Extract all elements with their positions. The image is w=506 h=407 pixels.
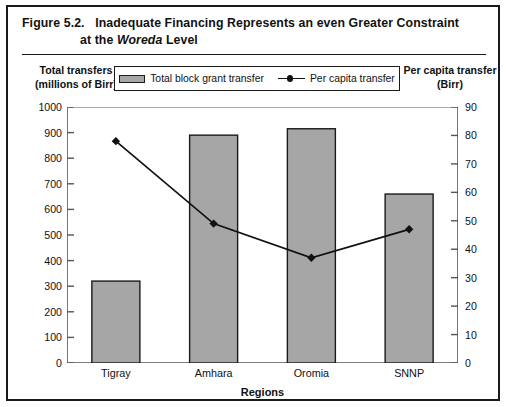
left-axis-title: Total transfers (millions of Birr) <box>24 64 128 91</box>
category-label-oromia: Oromia <box>263 367 361 383</box>
figure-title: Figure 5.2. Inadequate Financing Represe… <box>22 15 488 49</box>
title-divider <box>22 54 486 55</box>
right-tick-30: 30 <box>465 272 477 284</box>
figure-title-line1: Figure 5.2. Inadequate Financing Represe… <box>22 15 488 32</box>
category-axis-labels: TigrayAmharaOromiaSNNP <box>67 367 458 383</box>
left-axis-title-line1: Total transfers <box>24 64 128 78</box>
legend-item-per-capita-transfer: Per capita transfer <box>278 73 395 84</box>
left-tick-1000: 1000 <box>20 101 62 113</box>
left-tick-600: 600 <box>20 203 62 215</box>
right-tick-50: 50 <box>465 215 477 227</box>
left-tick-400: 400 <box>20 255 62 267</box>
right-tick-80: 80 <box>465 129 477 141</box>
figure-title-prefix: at the <box>80 33 117 47</box>
legend-line-marker-icon <box>278 74 305 84</box>
left-tick-0: 0 <box>20 357 62 369</box>
left-tick-700: 700 <box>20 178 62 190</box>
figure-frame: Figure 5.2. Inadequate Financing Represe… <box>6 5 500 401</box>
figure-title-italic-term: Woreda <box>117 33 162 47</box>
left-tick-800: 800 <box>20 152 62 164</box>
category-label-tigray: Tigray <box>67 367 165 383</box>
right-axis-tick-labels: 9080706050403020100 <box>465 107 499 363</box>
left-tick-900: 900 <box>20 127 62 139</box>
bar-amhara <box>190 135 238 363</box>
right-tick-40: 40 <box>465 243 477 255</box>
legend-bar-swatch-icon <box>119 75 145 83</box>
right-tick-70: 70 <box>465 158 477 170</box>
left-axis-title-line2: (millions of Birr) <box>24 78 128 92</box>
right-axis-title-line1: Per capita transfer <box>400 64 500 78</box>
figure-title-text: Inadequate Financing Represents an even … <box>95 16 459 30</box>
bar-tigray <box>92 281 140 363</box>
bar-snnp <box>385 194 433 363</box>
figure-number: Figure 5.2. <box>22 16 85 30</box>
right-tick-0: 0 <box>465 357 471 369</box>
left-tick-300: 300 <box>20 280 62 292</box>
legend-label-total-block-grant-transfer: Total block grant transfer <box>150 73 264 84</box>
left-tick-500: 500 <box>20 229 62 241</box>
right-tick-60: 60 <box>465 186 477 198</box>
figure-title-suffix: Level <box>162 33 197 47</box>
right-axis-title: Per capita transfer (Birr) <box>400 64 500 91</box>
left-axis-tick-labels: 10009008007006005004003002001000 <box>20 107 62 363</box>
plot-area <box>67 107 458 363</box>
per-capita-line <box>116 141 409 258</box>
left-tick-200: 200 <box>20 306 62 318</box>
left-tick-100: 100 <box>20 331 62 343</box>
bar-oromia <box>287 129 335 363</box>
right-axis-title-line2: (Birr) <box>400 78 500 92</box>
right-tick-90: 90 <box>465 101 477 113</box>
x-axis-title: Regions <box>67 386 458 398</box>
chart-canvas <box>67 107 458 363</box>
right-tick-10: 10 <box>465 329 477 341</box>
chart-legend: Total block grant transfer Per capita tr… <box>114 66 400 91</box>
legend-item-total-block-grant-transfer: Total block grant transfer <box>119 73 264 84</box>
category-label-amhara: Amhara <box>165 367 263 383</box>
legend-label-per-capita-transfer: Per capita transfer <box>310 73 395 84</box>
right-tick-20: 20 <box>465 300 477 312</box>
category-label-snnp: SNNP <box>360 367 458 383</box>
figure-title-line2: at the Woreda Level <box>22 32 488 49</box>
